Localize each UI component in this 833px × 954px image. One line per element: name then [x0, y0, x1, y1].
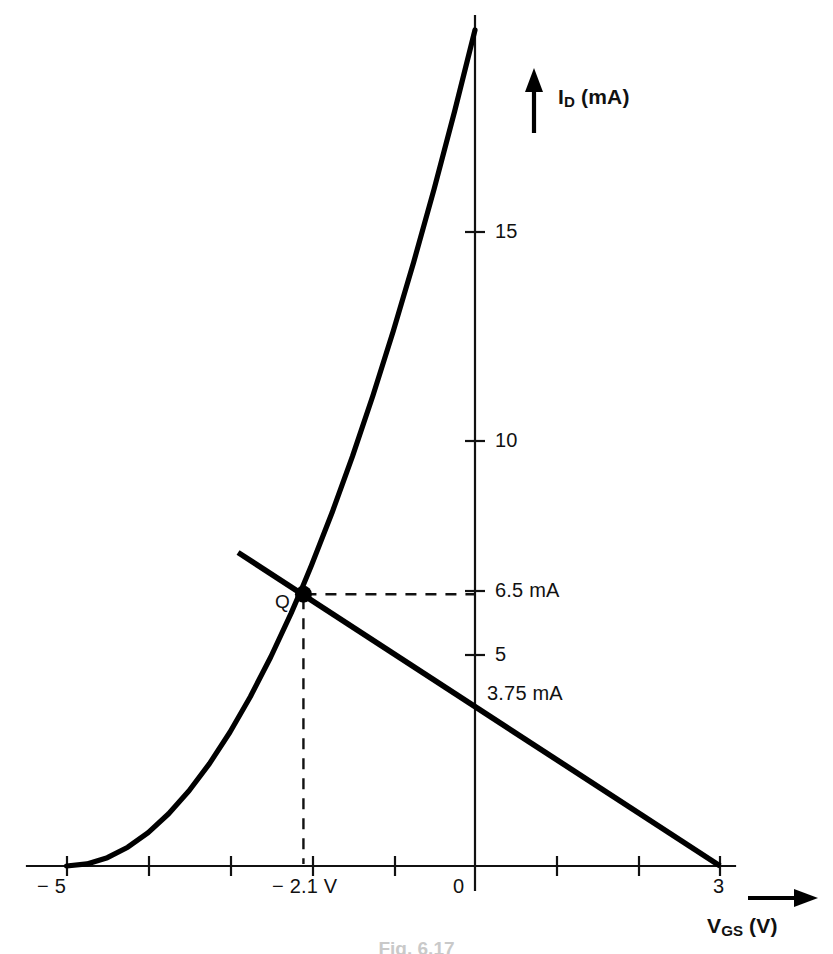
up-arrow-icon [525, 68, 543, 133]
figure-root: 15 10 6.5 mA 5 3.75 mA − 5 − 2.1 V 0 3 Q… [0, 0, 833, 954]
x-axis-title-units: (V) [743, 914, 778, 937]
y-axis-title: ID (mA) [558, 86, 630, 109]
dc-load-line [238, 553, 720, 867]
x-tick-label--2p1: − 2.1 V [272, 876, 337, 896]
y-tick-label-15: 15 [495, 221, 518, 241]
y-tick-label-5: 5 [495, 644, 506, 664]
y-tick-label-10: 10 [495, 430, 518, 450]
y-axis-title-units: (mA) [575, 85, 630, 108]
x-tick-label-0: 0 [453, 876, 464, 896]
transfer-characteristic-plot [0, 0, 833, 954]
load-line-intercept-label: 3.75 mA [487, 683, 563, 703]
x-axis-title: VGS (V) [707, 915, 778, 938]
y-tick-label-6p5: 6.5 mA [495, 580, 560, 600]
transfer-characteristic-curve [67, 30, 476, 866]
x-tick-label--5: − 5 [37, 876, 66, 896]
x-tick-label-3: 3 [713, 876, 724, 896]
right-arrow-icon [748, 889, 818, 907]
q-point-marker [295, 586, 312, 603]
x-axis-title-subscript: GS [721, 922, 743, 939]
q-point-label: Q [275, 592, 290, 611]
y-axis-title-subscript: D [564, 93, 575, 110]
x-axis-title-symbol: V [707, 914, 721, 937]
figure-caption: Fig. 6.17 [0, 938, 833, 954]
